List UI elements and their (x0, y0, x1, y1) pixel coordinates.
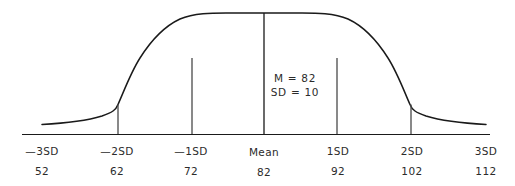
normal-distribution-figure: M = 82 SD = 10 —3SD 52 —2SD 62 —1SD 72 M… (0, 0, 515, 186)
distribution-plot (0, 0, 515, 186)
